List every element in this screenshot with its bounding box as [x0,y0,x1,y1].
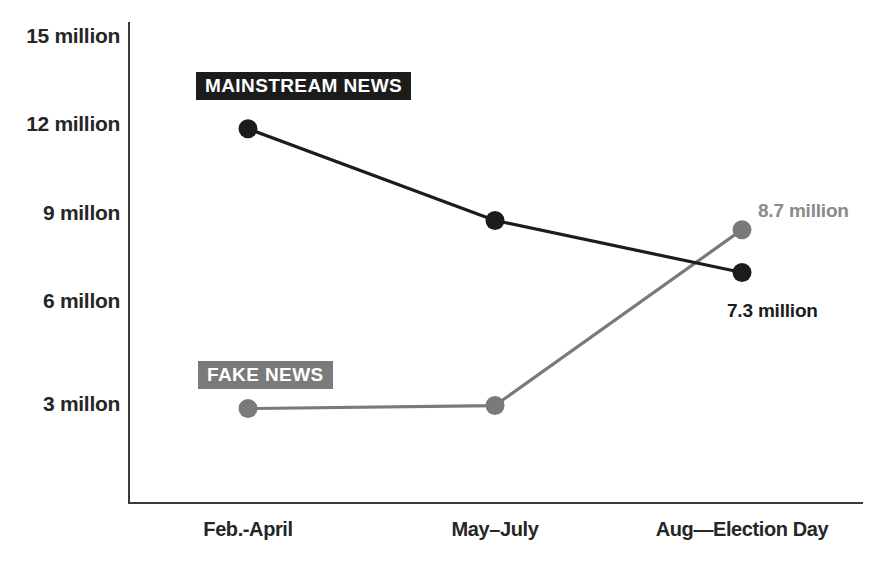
series-line-mainstream-news [248,129,742,273]
data-point-mainstream-news [239,119,258,138]
series-label-fake-news: FAKE NEWS [198,361,333,389]
data-label-mainstream-news-last: 7.3 million [727,300,818,322]
data-point-fake-news [733,220,752,239]
plot-area [0,0,881,564]
series-mainstream-news [239,119,752,282]
x-axis-tick-label-may-july: May–July [452,518,539,541]
y-axis-tick-label-6: 6 millon [8,289,120,313]
data-point-fake-news [239,399,258,418]
x-axis-tick-label-aug-election-day: Aug—Election Day [656,518,829,541]
x-axis-line [128,502,863,504]
y-axis-tick-label-9: 9 millon [8,201,120,225]
y-axis-tick-label-15: 15 million [8,24,120,48]
data-point-mainstream-news [733,263,752,282]
y-axis-line [128,22,130,503]
x-axis-tick-label-feb-april: Feb.-April [203,518,292,541]
y-axis-tick-label-3: 3 millon [8,392,120,416]
data-label-fake-news-last: 8.7 million [758,200,849,222]
y-axis-tick-label-12: 12 million [8,112,120,136]
data-point-mainstream-news [486,211,505,230]
data-point-fake-news [486,396,505,415]
series-label-mainstream-news: MAINSTREAM NEWS [196,72,411,100]
line-chart: 15 million 12 million 9 millon 6 millon … [0,0,881,564]
